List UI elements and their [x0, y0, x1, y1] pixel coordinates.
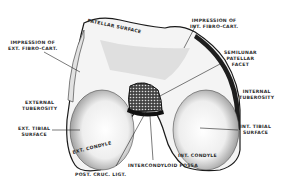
label-line: TUBEROSITY	[239, 95, 274, 101]
label-external-tuberosity: EXTERNAL TUBEROSITY	[22, 100, 57, 112]
label-line: FACET	[224, 62, 257, 68]
label-impression-ext-fibro: IMPRESSION OF EXT. FIBRO-CART.	[8, 40, 57, 52]
label-semilunar-patellar-facet: SEMILUNAR PATELLAR FACET	[224, 50, 257, 68]
label-post-cruc-ligt: POST. CRUC. LIGT.	[75, 172, 126, 178]
label-ext-tibial-surface: EXT. TIBIAL SURFACE	[18, 126, 50, 138]
label-line: EXT. FIBRO-CART.	[8, 46, 57, 52]
label-int-tibial-surface: INT. TIBIAL SURFACE	[240, 124, 271, 136]
femur-diagram: PATELLAR SURFACE IMPRESSION OF EXT. FIBR…	[0, 0, 285, 187]
label-internal-tuberosity: INTERNAL TUBEROSITY	[239, 89, 274, 101]
label-impression-int-fibro: IMPRESSION OF INT. FIBRO-CART.	[190, 18, 238, 30]
label-line: INT. FIBRO-CART.	[190, 24, 238, 30]
label-intercondyloid-fossa: INTERCONDYLOID FOSSA	[128, 163, 198, 169]
label-line: SURFACE	[18, 132, 50, 138]
label-int-condyle: INT. CONDYLE	[178, 153, 217, 159]
label-line: TUBEROSITY	[22, 106, 57, 112]
label-line: SURFACE	[240, 130, 271, 136]
